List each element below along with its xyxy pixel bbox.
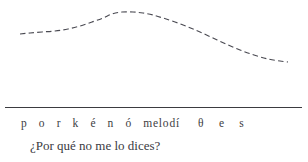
pitch-contour-plot (0, 0, 308, 100)
phonetic-transcription-row: p o r k é n ó melodí θ e s (0, 114, 308, 134)
pitch-contour-line (20, 12, 288, 62)
intonation-contour-figure: p o r k é n ó melodí θ e s ¿Por qué no m… (0, 0, 308, 162)
pitch-contour-svg (0, 0, 308, 100)
phonetic-transcription: p o r k é n ó melodí θ e s (21, 114, 250, 132)
transcription-segment-1: p o r k é n ó (21, 117, 143, 129)
transcription-segment-3: θ e s (180, 117, 250, 129)
transcription-segment-2: melodí (143, 117, 180, 129)
baseline-rule (5, 107, 302, 108)
orthographic-gloss-row: ¿Por qué no me lo dices? (0, 136, 308, 158)
orthographic-gloss: ¿Por qué no me lo dices? (30, 136, 160, 155)
